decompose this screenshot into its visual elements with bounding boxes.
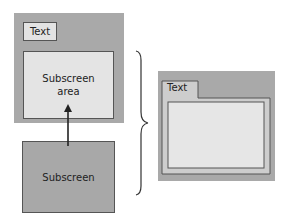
diagram-lines	[0, 0, 287, 223]
tab-page-area	[168, 102, 264, 168]
brace-icon	[136, 51, 148, 195]
arrow-up-icon	[64, 104, 72, 146]
tab-label: Text	[167, 82, 187, 93]
